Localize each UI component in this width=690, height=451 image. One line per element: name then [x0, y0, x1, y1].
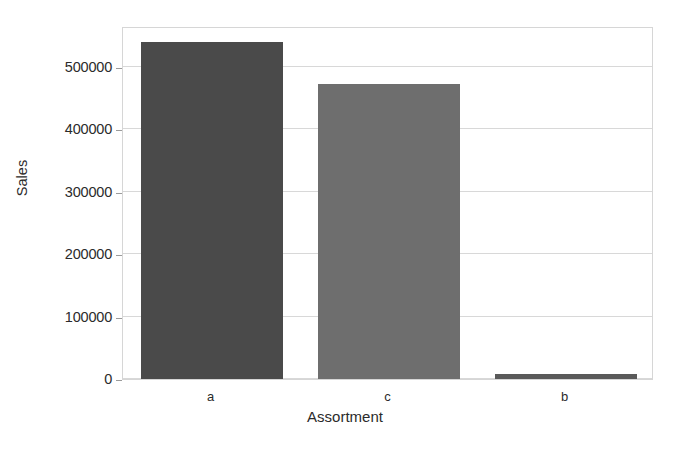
bar-chart: 5000004000003000002000001000000 Sales ac… — [0, 0, 690, 451]
y-tick-mark — [116, 255, 122, 256]
x-tick-label: a — [122, 389, 299, 404]
x-tick-label: b — [476, 389, 653, 404]
y-tick-mark — [116, 130, 122, 131]
y-tick-mark — [116, 68, 122, 69]
y-tick-mark — [116, 380, 122, 381]
y-tick-label: 500000 — [0, 59, 112, 75]
y-tick-label: 400000 — [0, 121, 112, 137]
x-axis-title: Assortment — [0, 408, 690, 425]
y-tick-mark — [116, 193, 122, 194]
y-tick-label: 0 — [0, 371, 112, 387]
x-tick-label: c — [299, 389, 476, 404]
y-tick-label: 200000 — [0, 246, 112, 262]
y-axis-title: Sales — [14, 138, 30, 218]
y-tick-mark — [116, 318, 122, 319]
y-tick-label: 100000 — [0, 309, 112, 325]
y-axis: 5000004000003000002000001000000 — [0, 0, 690, 451]
